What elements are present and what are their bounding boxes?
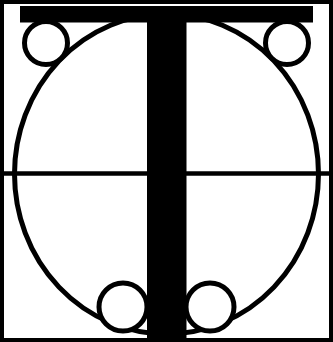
letter-t-emblem-graphic	[0, 0, 333, 342]
corner-circle-bottom-right	[186, 283, 234, 331]
corner-circle-top-right	[266, 22, 309, 65]
corner-circle-bottom-left	[99, 283, 147, 331]
logo-canvas: Stylized capital letter T logo built fro…	[0, 0, 333, 342]
corner-circle-top-left	[25, 22, 68, 65]
